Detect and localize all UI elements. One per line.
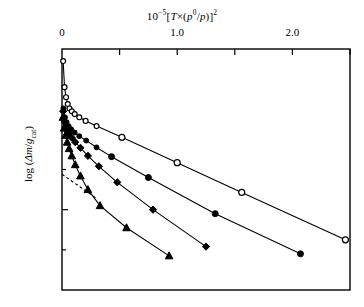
filled-triangle-series-point-10 — [123, 224, 131, 231]
plot-frame — [62, 49, 350, 290]
filled-circle-series-point-12 — [297, 251, 303, 257]
figure-container: 10−5[T×(p0/p)]2 log (Δm/gcat) 01.02.0 −0… — [0, 0, 364, 307]
filled-circle-series-point-5 — [72, 130, 77, 135]
open-circle-series-point-1 — [62, 85, 67, 90]
open-circle-series-point-8 — [83, 118, 88, 123]
open-circle-series-line — [63, 61, 345, 240]
filled-triangle-series-point-7 — [77, 172, 85, 179]
open-circle-series-point-11 — [174, 160, 180, 166]
filled-circle-series-line — [63, 108, 300, 253]
plot-area — [0, 0, 364, 307]
filled-triangle-series-point-6 — [71, 161, 79, 168]
filled-circle-series-point-9 — [109, 154, 115, 160]
open-circle-series-point-2 — [64, 95, 69, 100]
filled-triangle-series-point-11 — [165, 252, 173, 259]
filled-circle-series-point-8 — [94, 145, 99, 150]
filled-triangle-series-point-5 — [68, 152, 76, 159]
open-circle-series — [61, 59, 349, 243]
filled-circle-series-point-10 — [145, 175, 151, 181]
filled-triangle-series-point-8 — [84, 186, 92, 193]
open-circle-series-point-10 — [119, 134, 125, 140]
filled-circle-series-point-7 — [84, 138, 89, 143]
open-circle-series-point-13 — [342, 237, 348, 243]
open-circle-series-point-12 — [239, 189, 245, 195]
open-circle-series-point-9 — [94, 124, 99, 129]
open-circle-series-point-0 — [61, 59, 66, 64]
open-circle-series-point-7 — [77, 115, 82, 120]
filled-diamond-series-point-11 — [202, 243, 209, 250]
filled-circle-series-point-11 — [212, 211, 218, 217]
filled-circle-series-point-6 — [77, 134, 82, 139]
open-circle-series-point-6 — [72, 112, 77, 117]
